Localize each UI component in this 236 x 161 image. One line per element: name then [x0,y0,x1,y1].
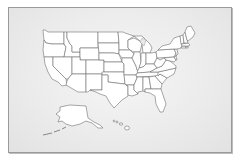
state-washington[interactable] [43,30,64,44]
state-colorado[interactable] [86,60,104,74]
state-north-dakota[interactable] [98,32,119,43]
state-new-york[interactable] [158,36,182,50]
us-map [0,0,236,161]
state-kansas[interactable] [104,62,124,72]
state-hawaii[interactable] [113,120,129,130]
state-maine[interactable] [185,26,195,41]
state-alaska[interactable] [56,105,103,128]
state-wyoming[interactable] [80,48,99,60]
state-florida[interactable] [145,89,166,112]
aleutian-islands [43,127,66,135]
state-south-dakota[interactable] [98,43,119,54]
state-new-mexico[interactable] [86,74,102,92]
state-pennsylvania[interactable] [156,49,176,58]
